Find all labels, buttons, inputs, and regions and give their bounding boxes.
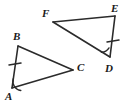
triangle-abc-group xyxy=(12,46,73,88)
geometry-diagram: A B C D E F xyxy=(0,0,131,106)
vertex-label-e: E xyxy=(111,3,118,14)
vertex-label-f: F xyxy=(42,8,49,19)
segment-ed xyxy=(110,16,115,57)
segment-ca xyxy=(12,70,73,88)
vertex-label-d: D xyxy=(105,63,113,74)
vertex-label-b: B xyxy=(13,31,20,42)
vertex-label-c: C xyxy=(77,62,84,73)
triangles-svg-canvas xyxy=(0,0,131,106)
segment-bc xyxy=(18,46,73,70)
angle-arc-d xyxy=(101,48,109,52)
congruence-tick-side-ab xyxy=(9,63,21,65)
angle-arc-a xyxy=(13,79,21,91)
vertex-label-a: A xyxy=(5,91,12,102)
congruence-tick-side-de xyxy=(107,40,119,42)
segment-fe xyxy=(53,16,115,22)
